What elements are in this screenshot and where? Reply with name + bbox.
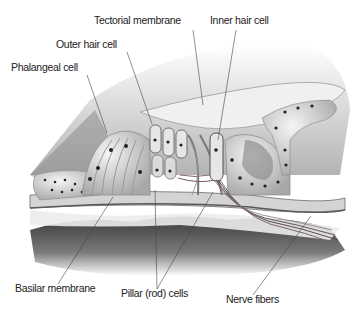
label-nerve-fibers: Nerve fibers (226, 293, 279, 305)
organ-of-corti-diagram: Tectorial membrane Inner hair cell Outer… (0, 0, 359, 318)
label-inner-hair-cell: Inner hair cell (210, 14, 269, 26)
illustration (0, 0, 359, 318)
label-pillar-cells: Pillar (rod) cells (121, 287, 188, 299)
label-tectorial-membrane: Tectorial membrane (94, 14, 181, 26)
label-phalangeal-cell: Phalangeal cell (11, 61, 78, 73)
label-outer-hair-cell: Outer hair cell (56, 38, 117, 50)
label-basilar-membrane: Basilar membrane (15, 282, 95, 294)
